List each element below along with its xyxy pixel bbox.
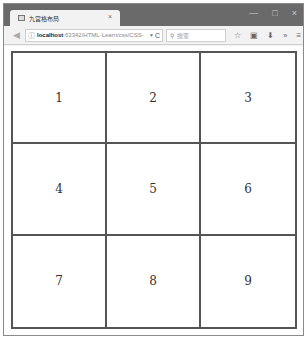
download-icon[interactable]: ⬇ bbox=[267, 31, 274, 40]
overflow-icon[interactable]: » bbox=[283, 31, 287, 40]
back-icon[interactable]: ◀ bbox=[10, 30, 22, 40]
grid-cell-7: 7 bbox=[13, 236, 107, 327]
grid-cell-2: 2 bbox=[107, 53, 201, 144]
site-info-icon[interactable]: ⓘ bbox=[28, 30, 35, 40]
grid-cell-8: 8 bbox=[107, 236, 201, 327]
address-bar[interactable]: ⓘ localhost :63342/HTML-Learn/css/CSS- ▼… bbox=[25, 29, 163, 42]
tab-close-icon[interactable]: × bbox=[108, 13, 112, 20]
search-input[interactable]: ⚲ 搜索 bbox=[166, 29, 226, 42]
page-icon bbox=[18, 15, 25, 21]
maximize-icon[interactable]: □ bbox=[272, 8, 277, 18]
nine-grid: 1 2 3 4 5 6 7 8 9 bbox=[11, 51, 297, 329]
toolbar-icons: ☆ ▣ ⬇ » ≡ bbox=[234, 31, 301, 40]
browser-tab[interactable]: 九宫格布局 × bbox=[10, 10, 120, 26]
bookmark-star-icon[interactable]: ☆ bbox=[234, 31, 241, 40]
browser-window: 九宫格布局 × — □ × ◀ ⓘ localhost :63342/HTML-… bbox=[3, 3, 304, 336]
nav-toolbar: ◀ ⓘ localhost :63342/HTML-Learn/css/CSS-… bbox=[4, 26, 303, 45]
title-bar: 九宫格布局 × — □ × bbox=[4, 4, 303, 26]
bookmarks-library-icon[interactable]: ▣ bbox=[250, 31, 258, 40]
menu-icon[interactable]: ≡ bbox=[296, 31, 301, 40]
grid-cell-6: 6 bbox=[201, 144, 295, 235]
page-viewport: 1 2 3 4 5 6 7 8 9 bbox=[4, 46, 303, 335]
window-close-icon[interactable]: × bbox=[292, 8, 297, 18]
reload-icon[interactable]: C bbox=[155, 32, 162, 39]
grid-cell-4: 4 bbox=[13, 144, 107, 235]
search-placeholder: 搜索 bbox=[177, 31, 189, 40]
url-path: :63342/HTML-Learn/css/CSS- bbox=[63, 32, 143, 38]
grid-cell-1: 1 bbox=[13, 53, 107, 144]
minimize-icon[interactable]: — bbox=[249, 8, 258, 18]
window-controls: — □ × bbox=[249, 8, 297, 18]
search-icon: ⚲ bbox=[170, 32, 174, 39]
grid-cell-3: 3 bbox=[201, 53, 295, 144]
tab-title: 九宫格布局 bbox=[29, 14, 59, 23]
grid-cell-9: 9 bbox=[201, 236, 295, 327]
url-host: localhost bbox=[37, 32, 63, 38]
grid-cell-5: 5 bbox=[107, 144, 201, 235]
